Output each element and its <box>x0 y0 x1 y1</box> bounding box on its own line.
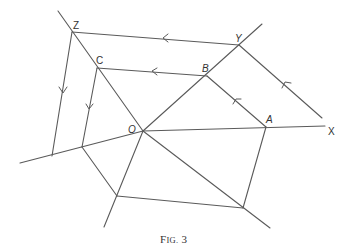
segment-p3-p4 <box>117 196 243 208</box>
segment-p2-p3 <box>82 147 117 196</box>
label-a: A <box>265 114 273 125</box>
caption-ig: IG. <box>166 235 178 245</box>
segment-yz <box>72 32 239 45</box>
ray-ox <box>143 126 325 131</box>
segment-c-down <box>82 68 97 147</box>
caption-number: 3 <box>181 233 187 245</box>
geometry-figure: Z C Y B O A X FIG.3 <box>0 0 353 250</box>
label-x: X <box>328 126 335 137</box>
figure-caption: FIG.3 <box>160 233 187 245</box>
segment-y-lower-right <box>239 45 322 118</box>
label-o: O <box>128 124 136 135</box>
segment-z-down <box>52 32 72 156</box>
ray-oz <box>58 11 143 131</box>
segment-p4-a <box>243 127 266 208</box>
segment-bc <box>97 68 207 76</box>
label-c: C <box>96 55 103 66</box>
ray-oy <box>143 24 262 131</box>
segment-ab <box>207 76 266 127</box>
ray-down <box>104 131 143 227</box>
arrow-icon-bc <box>152 68 157 75</box>
arrow-icon-yz <box>163 34 168 42</box>
label-z: Z <box>73 20 79 31</box>
label-b: B <box>202 63 209 74</box>
